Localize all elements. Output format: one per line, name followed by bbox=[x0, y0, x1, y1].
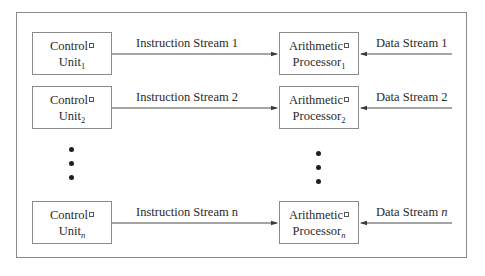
square-glyph-icon bbox=[89, 97, 94, 102]
data-stream-label-1: Data Stream 1 bbox=[376, 36, 448, 51]
ellipsis-dot-icon bbox=[69, 147, 74, 152]
arithmetic-processor-1: Arithmetic Processor1 bbox=[279, 32, 359, 75]
arithmetic-label: Arithmetic bbox=[289, 208, 343, 222]
control-unit-label: Control bbox=[50, 39, 88, 53]
ellipsis-dot-icon bbox=[316, 165, 321, 170]
data-stream-label-n: Data Stream n bbox=[376, 205, 448, 220]
data-stream-label-2: Data Stream 2 bbox=[376, 90, 448, 105]
instruction-stream-label-n: Instruction Stream n bbox=[136, 205, 238, 220]
subscript: 1 bbox=[341, 61, 345, 71]
arithmetic-label: Arithmetic bbox=[289, 39, 343, 53]
control-unit-n: Control Unitn bbox=[32, 201, 112, 244]
control-unit-label: Control bbox=[50, 93, 88, 107]
data-stream-variable: n bbox=[441, 205, 447, 219]
control-unit-2: Control Unit2 bbox=[32, 86, 112, 129]
square-glyph-icon bbox=[344, 43, 349, 48]
subscript: n bbox=[81, 230, 85, 240]
unit-label: Unit bbox=[59, 224, 81, 238]
square-glyph-icon bbox=[89, 43, 94, 48]
ellipsis-dot-icon bbox=[316, 179, 321, 184]
subscript: 2 bbox=[341, 115, 345, 125]
data-stream-text: Data Stream bbox=[376, 205, 441, 219]
subscript: 1 bbox=[81, 61, 85, 71]
subscript: n bbox=[341, 230, 345, 240]
arithmetic-label: Arithmetic bbox=[289, 93, 343, 107]
arithmetic-processor-n: Arithmetic Processorn bbox=[279, 201, 359, 244]
subscript: 2 bbox=[81, 115, 85, 125]
ellipsis-dot-icon bbox=[69, 175, 74, 180]
processor-label: Processor bbox=[293, 55, 342, 69]
ellipsis-dot-icon bbox=[69, 161, 74, 166]
instruction-stream-label-2: Instruction Stream 2 bbox=[136, 90, 238, 105]
processor-label: Processor bbox=[293, 109, 342, 123]
processor-label: Processor bbox=[293, 224, 342, 238]
control-unit-label: Control bbox=[50, 208, 88, 222]
ellipsis-dot-icon bbox=[316, 151, 321, 156]
unit-label: Unit bbox=[59, 55, 81, 69]
instruction-stream-label-1: Instruction Stream 1 bbox=[136, 36, 238, 51]
square-glyph-icon bbox=[344, 97, 349, 102]
square-glyph-icon bbox=[89, 212, 94, 217]
square-glyph-icon bbox=[344, 212, 349, 217]
arithmetic-processor-2: Arithmetic Processor2 bbox=[279, 86, 359, 129]
unit-label: Unit bbox=[59, 109, 81, 123]
control-unit-1: Control Unit1 bbox=[32, 32, 112, 75]
